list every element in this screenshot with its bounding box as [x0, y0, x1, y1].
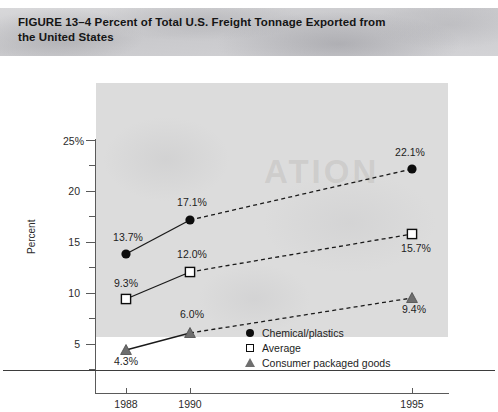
- x-tick-label-1988: 1988: [96, 398, 156, 410]
- plot-background-panel: ATION: [96, 83, 448, 337]
- x-tick-1995: [412, 388, 413, 394]
- legend-label-chemical-plastics: Chemical/plastics: [262, 327, 344, 339]
- y-tick-7_5: [89, 318, 96, 319]
- y-tick-22_5: [89, 165, 96, 166]
- filled-triangle-icon: [243, 358, 257, 367]
- y-tick-12_5: [89, 267, 96, 268]
- watermark-text: ATION: [264, 153, 379, 191]
- chart-legend: Chemical/plastics Average Consumer packa…: [243, 325, 390, 370]
- legend-item-average[interactable]: Average: [243, 340, 390, 355]
- legend-label-consumer-packaged-goods: Consumer packaged goods: [262, 357, 390, 369]
- page-title: FIGURE 13–4 Percent of Total U.S. Freigh…: [18, 15, 482, 45]
- x-tick-1990: [190, 388, 191, 394]
- x-tick-1988: [126, 388, 127, 394]
- y-tick-label-10: 10: [38, 287, 80, 299]
- average-label-1990: 12.0%: [177, 248, 207, 260]
- y-axis-title: Percent: [26, 220, 37, 254]
- y-tick-15: [86, 242, 96, 243]
- chem-label-1990: 17.1%: [177, 196, 207, 208]
- x-axis-line: [95, 393, 449, 394]
- y-tick-17_5: [89, 216, 96, 217]
- x-tick-label-1990: 1990: [160, 398, 220, 410]
- cpg-label-1995: 9.4%: [402, 303, 426, 315]
- legend-item-chemical-plastics[interactable]: Chemical/plastics: [243, 325, 390, 340]
- chem-label-1995: 22.1%: [395, 146, 425, 158]
- y-tick-25: [86, 140, 96, 141]
- legend-item-consumer-packaged-goods[interactable]: Consumer packaged goods: [243, 355, 390, 370]
- open-square-icon: [243, 344, 257, 352]
- legend-label-average: Average: [262, 342, 301, 354]
- cpg-label-1988: 4.3%: [114, 355, 138, 367]
- cpg-label-1990: 6.0%: [180, 308, 204, 320]
- filled-circle-icon: [243, 329, 257, 337]
- y-tick-20: [86, 191, 96, 192]
- bottom-divider: [3, 370, 495, 371]
- average-label-1995: 15.7%: [401, 242, 431, 254]
- x-tick-label-1995: 1995: [382, 398, 442, 410]
- y-tick-label-20: 20: [38, 185, 80, 197]
- y-tick-label-25: 25%: [42, 135, 84, 147]
- y-tick-label-15: 15: [38, 236, 80, 248]
- cpg-point-1988[interactable]: [121, 345, 132, 355]
- y-tick-10: [86, 293, 96, 294]
- chart-container: ATION 25% 20 15 10 5 Percent 1988 1990 1…: [0, 56, 498, 375]
- chem-label-1988: 13.7%: [113, 231, 143, 243]
- average-label-1988: 9.3%: [114, 277, 138, 289]
- figure-title-banner: FIGURE 13–4 Percent of Total U.S. Freigh…: [0, 8, 498, 56]
- y-tick-label-5: 5: [38, 338, 80, 350]
- y-tick-5: [86, 344, 96, 345]
